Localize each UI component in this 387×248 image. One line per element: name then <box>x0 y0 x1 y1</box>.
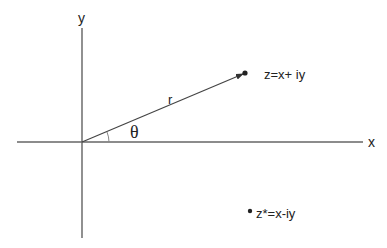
angle-label: θ <box>130 122 139 142</box>
vector-r <box>82 74 243 142</box>
vector-label: r <box>168 92 173 107</box>
angle-arc <box>107 132 109 142</box>
point-z-dot <box>242 70 247 75</box>
complex-plane-diagram: y x r θ z=x+ iy z*=x-iy <box>0 0 387 248</box>
point-z-conjugate-dot <box>248 209 252 213</box>
point-z-label: z=x+ iy <box>264 67 306 82</box>
y-axis-label: y <box>78 10 85 26</box>
point-z-conjugate-label: z*=x-iy <box>256 206 296 221</box>
x-axis-label: x <box>368 134 375 150</box>
